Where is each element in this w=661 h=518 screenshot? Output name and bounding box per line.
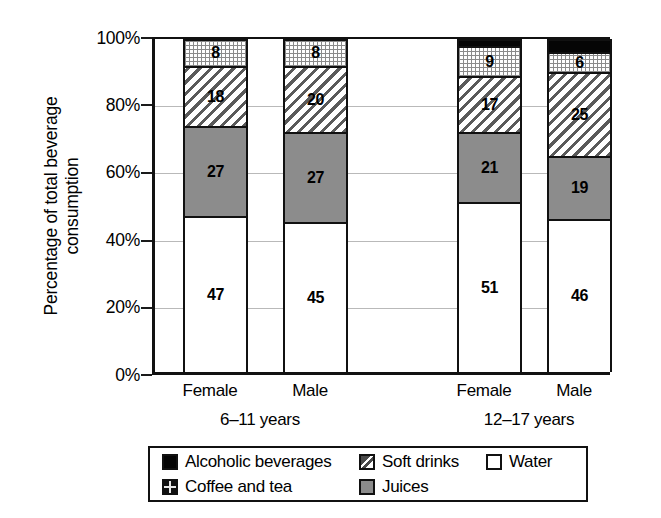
y-tick-mark-80 [141,104,152,106]
segment-label-soft-drinks: 17 [481,96,498,114]
y-tick-mark-20 [141,307,152,309]
segment-label-water: 46 [571,287,588,305]
segment-label-coffee-and-tea: 8 [311,44,320,62]
segment-label-juices: 21 [481,159,498,177]
segment-label-coffee-and-tea: 9 [485,53,494,71]
segment-soft-drinks[interactable]: 20 [285,66,346,133]
bar-12-17-female[interactable]: 51 21 17 9 [457,39,522,372]
segment-water[interactable]: 51 [459,202,520,372]
bar-12-17-male[interactable]: 46 19 25 6 [547,39,612,372]
segment-soft-drinks[interactable]: 18 [185,66,246,126]
segment-label-soft-drinks: 18 [207,88,224,106]
y-tick-mark-40 [141,240,152,242]
segment-coffee-and-tea[interactable]: 6 [549,52,610,72]
legend: Alcoholic beverages Soft drinks Water Co… [148,446,588,502]
segment-label-soft-drinks: 20 [307,91,324,109]
segment-soft-drinks[interactable]: 25 [549,72,610,155]
segment-label-juices: 19 [571,179,588,197]
segment-label-water: 47 [207,286,224,304]
segment-label-juices: 27 [307,169,324,187]
x-group-label-6-11-years: 6–11 years [150,410,370,430]
legend-item-water[interactable]: Water [486,449,552,475]
legend-swatch-alcoholic-beverages-icon [162,454,178,470]
segment-label-soft-drinks: 25 [571,106,588,124]
segment-water[interactable]: 45 [285,222,346,372]
segment-juices[interactable]: 27 [285,132,346,222]
legend-swatch-soft-drinks-icon [359,454,375,470]
segment-label-water: 51 [481,279,498,297]
segment-coffee-and-tea[interactable]: 9 [459,46,520,76]
y-tick-label-40: 40% [84,232,140,250]
legend-swatch-juices-icon [359,479,375,495]
y-tick-label-60: 60% [84,164,140,182]
legend-label-coffee-and-tea: Coffee and tea [185,477,292,497]
legend-swatch-water-icon [486,454,502,470]
legend-swatch-coffee-and-tea-icon [162,479,178,495]
segment-water[interactable]: 46 [549,219,610,372]
y-tick-label-20: 20% [84,299,140,317]
bar-6-11-male[interactable]: 45 27 20 8 [283,39,348,372]
y-tick-label-80: 80% [84,97,140,115]
segment-soft-drinks[interactable]: 17 [459,76,520,133]
legend-label-alcoholic-beverages: Alcoholic beverages [185,452,331,472]
segment-juices[interactable]: 27 [185,126,246,216]
segment-alcoholic-beverages[interactable] [459,39,520,46]
segment-juices[interactable]: 19 [549,156,610,219]
y-tick-label-100: 100% [84,30,140,48]
x-group-label-12-17-years: 12–17 years [424,410,634,430]
bar-6-11-female[interactable]: 47 27 18 8 [183,39,248,372]
segment-juices[interactable]: 21 [459,132,520,202]
y-tick-mark-60 [141,172,152,174]
y-tick-label-0: 0% [84,367,140,385]
legend-item-coffee-and-tea[interactable]: Coffee and tea [162,474,292,500]
legend-item-soft-drinks[interactable]: Soft drinks [359,449,459,475]
segment-water[interactable]: 47 [185,216,246,373]
y-tick-mark-0 [141,374,152,376]
segment-coffee-and-tea[interactable]: 8 [285,39,346,66]
y-tick-mark-100 [141,37,152,39]
segment-label-juices: 27 [207,163,224,181]
y-axis-title: Percentage of total beverage consumption [41,26,83,386]
legend-label-water: Water [509,452,552,472]
segment-label-water: 45 [307,289,324,307]
x-tick-label-12-17-male: Male [514,381,634,401]
y-axis-tick-labels: 100% 80% 60% 40% 20% 0% [84,0,140,420]
legend-label-soft-drinks: Soft drinks [382,452,459,472]
legend-item-alcoholic-beverages[interactable]: Alcoholic beverages [162,449,331,475]
segment-coffee-and-tea[interactable]: 8 [185,39,246,66]
segment-alcoholic-beverages[interactable] [549,39,610,52]
plot-area: 47 27 18 8 45 27 20 8 51 [152,37,610,375]
segment-label-coffee-and-tea: 8 [211,44,220,62]
x-tick-label-6-11-male: Male [250,381,370,401]
segment-label-coffee-and-tea: 6 [575,54,584,72]
legend-item-juices[interactable]: Juices [359,474,428,500]
legend-label-juices: Juices [382,477,428,497]
